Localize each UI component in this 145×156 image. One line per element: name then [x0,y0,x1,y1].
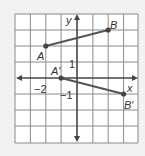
tick-label-y-1: 1 [69,58,75,70]
tick-label-x-neg2: −2 [34,83,47,95]
x-axis-label: x [126,82,133,94]
point-a [43,43,48,48]
label-a: A [36,50,44,62]
label-b-prime: B′ [124,99,134,111]
label-a-prime: A′ [50,65,61,77]
coordinate-plane: y x −2 1 −1 A B A′ B′ [0,0,145,156]
label-b: B [110,19,117,31]
tick-label-y-neg1: −1 [60,89,73,101]
point-b-prime [121,91,126,96]
